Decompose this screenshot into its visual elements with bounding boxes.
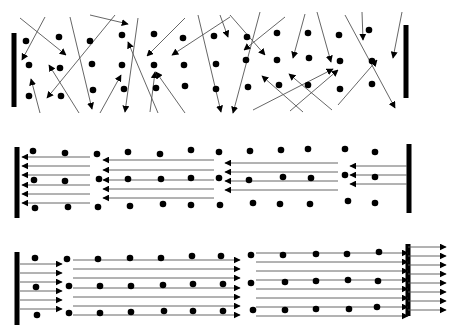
particle-dot: [250, 307, 257, 314]
left-electrode-bar: [15, 252, 20, 325]
particle-dot: [372, 200, 379, 207]
particle-dot: [182, 83, 189, 90]
particle-dot: [274, 57, 281, 64]
arrow: [125, 18, 138, 112]
particle-dot: [157, 151, 164, 158]
particle-dot: [274, 30, 281, 37]
particle-dot: [376, 249, 383, 256]
particle-dot: [247, 148, 254, 155]
particle-dot: [369, 58, 376, 65]
particle-dot: [153, 85, 160, 92]
particle-dot: [32, 205, 39, 212]
particle-dot: [336, 32, 343, 39]
arrow: [70, 17, 92, 109]
particle-dot: [90, 87, 97, 94]
particle-dot: [342, 146, 349, 153]
particle-dot: [308, 175, 315, 182]
particle-dot: [188, 175, 195, 182]
particle-dot: [211, 33, 218, 40]
right-electrode-bar: [407, 144, 412, 213]
particle-dot: [246, 177, 253, 184]
particle-dot: [220, 281, 227, 288]
particle-dot: [188, 147, 195, 154]
diagram-canvas: Random motion Flow to the left Flow to t…: [0, 0, 458, 332]
arrow: [253, 69, 333, 110]
particle-dot: [313, 278, 320, 285]
particle-dot: [344, 251, 351, 258]
particle-dot: [56, 34, 63, 41]
particle-dot: [30, 148, 37, 155]
particle-dot: [375, 278, 382, 285]
particle-dot: [33, 284, 40, 291]
particle-dot: [62, 150, 69, 157]
particle-dot: [366, 27, 373, 34]
arrow: [220, 15, 228, 37]
particle-dot: [64, 256, 71, 263]
right-electrode-bar: [404, 25, 409, 98]
particle-dot: [160, 282, 167, 289]
particle-dot: [94, 151, 101, 158]
particle-dot: [32, 255, 39, 262]
arrow: [362, 12, 363, 40]
arrow: [317, 12, 331, 62]
arrow: [31, 79, 40, 113]
particle-dot: [280, 252, 287, 259]
left-electrode-bar: [12, 33, 17, 107]
particle-dot: [218, 253, 225, 260]
particle-dot: [282, 279, 289, 286]
arrow: [289, 74, 332, 110]
particle-dot: [26, 62, 33, 69]
particle-dot: [372, 149, 379, 156]
panel-random-motion: [12, 12, 409, 113]
particle-dot: [66, 310, 73, 317]
particle-dot: [313, 306, 320, 313]
particle-dot: [57, 65, 64, 72]
particle-dot: [127, 203, 134, 210]
particle-dot: [95, 204, 102, 211]
left-electrode-bar: [15, 147, 20, 218]
particle-dot: [31, 177, 38, 184]
particle-dot: [151, 31, 158, 38]
particle-dot: [213, 86, 220, 93]
particle-dot: [243, 57, 250, 64]
particle-dot: [190, 308, 197, 315]
particle-dot: [180, 35, 187, 42]
particle-dot: [119, 32, 126, 39]
particle-dot: [217, 202, 224, 209]
particle-dot: [277, 201, 284, 208]
diagram-svg: [0, 0, 458, 332]
particle-dot: [87, 38, 94, 45]
particle-dot: [119, 62, 126, 69]
arrow: [293, 14, 305, 58]
arrow: [290, 70, 338, 111]
particle-dot: [65, 204, 72, 211]
particle-dot: [95, 256, 102, 263]
particle-dot: [161, 308, 168, 315]
particle-dot: [121, 86, 128, 93]
particle-dot: [66, 283, 73, 290]
particle-dot: [23, 38, 30, 45]
particle-dot: [160, 201, 167, 208]
particle-dot: [216, 149, 223, 156]
particle-dot: [220, 308, 227, 315]
arrow: [156, 72, 185, 113]
particle-dot: [337, 58, 344, 65]
particle-dot: [248, 252, 255, 259]
particle-dot: [181, 62, 188, 69]
arrow: [262, 76, 303, 112]
particle-dot: [276, 82, 283, 89]
particle-dot: [34, 312, 41, 319]
particle-dot: [58, 93, 65, 100]
arrow: [393, 12, 402, 58]
panel-flow-right: [15, 244, 447, 325]
particle-dot: [306, 55, 313, 62]
particle-dot: [89, 61, 96, 68]
particle-dot: [372, 174, 379, 181]
particle-dot: [250, 200, 257, 207]
arrow: [47, 15, 115, 98]
particle-dot: [127, 255, 134, 262]
particle-dot: [188, 202, 195, 209]
arrow: [100, 75, 121, 113]
arrow: [128, 42, 158, 113]
particle-dot: [346, 306, 353, 313]
